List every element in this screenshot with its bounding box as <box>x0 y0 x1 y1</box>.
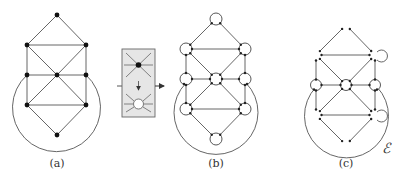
port <box>349 88 351 90</box>
edge <box>190 53 212 75</box>
port <box>238 78 240 80</box>
vertex <box>55 13 60 18</box>
port <box>374 59 376 61</box>
port <box>341 28 343 30</box>
port <box>240 112 242 114</box>
edge <box>190 23 212 45</box>
port <box>370 118 372 120</box>
port <box>209 78 211 80</box>
expanded-vertex <box>239 73 251 85</box>
transform-box <box>117 49 164 117</box>
loop <box>377 110 387 122</box>
port <box>374 78 376 80</box>
port <box>185 72 187 74</box>
port <box>246 83 248 85</box>
vertex <box>25 73 30 78</box>
port <box>240 43 242 45</box>
port <box>349 140 351 142</box>
edge <box>57 105 86 135</box>
port <box>185 54 187 56</box>
vertex <box>25 103 30 108</box>
edge <box>57 75 86 105</box>
port <box>244 102 246 104</box>
edge <box>220 113 241 134</box>
port <box>315 59 317 61</box>
port <box>350 84 352 86</box>
port <box>339 84 341 86</box>
edge <box>350 29 371 51</box>
port <box>370 110 372 112</box>
port <box>320 54 322 56</box>
port <box>313 88 315 90</box>
graph-b <box>174 13 258 154</box>
port <box>240 103 242 105</box>
port <box>221 78 223 80</box>
port <box>219 133 221 135</box>
edge <box>350 119 371 141</box>
port <box>211 82 213 84</box>
port <box>219 73 221 75</box>
edge <box>320 119 342 141</box>
port <box>319 118 321 120</box>
port <box>349 28 351 30</box>
edge <box>320 89 342 111</box>
port <box>341 80 343 82</box>
port <box>244 72 246 74</box>
port <box>368 54 370 56</box>
port <box>368 84 370 86</box>
port <box>370 50 372 52</box>
graph-a <box>13 13 101 152</box>
port <box>211 74 213 76</box>
port <box>319 50 321 52</box>
port <box>211 22 213 24</box>
port <box>370 58 372 60</box>
edge <box>57 45 86 75</box>
vertex <box>55 133 60 138</box>
outer-face-label: ℰ <box>382 140 390 156</box>
edge <box>220 83 241 104</box>
loop <box>377 50 387 62</box>
vertex <box>25 43 30 48</box>
edge <box>190 83 212 105</box>
vertex <box>55 73 60 78</box>
port <box>189 104 191 106</box>
edge <box>220 53 241 74</box>
port <box>368 114 370 116</box>
port <box>189 44 191 46</box>
figure: (a) (b) (c) ℰ <box>0 0 401 184</box>
port <box>191 48 193 50</box>
panel-label-c: (c) <box>339 157 354 170</box>
port <box>219 82 221 84</box>
port <box>320 84 322 86</box>
outer-arc <box>305 87 389 158</box>
port <box>191 78 193 80</box>
vertex <box>84 43 89 48</box>
edge <box>320 29 342 51</box>
panel-label-b: (b) <box>208 157 224 170</box>
edge <box>27 75 57 105</box>
port <box>315 108 317 110</box>
edge <box>350 89 371 111</box>
port <box>189 112 191 114</box>
edge <box>350 59 371 81</box>
port <box>376 88 378 90</box>
port <box>189 52 191 54</box>
expanded-vertex <box>311 80 322 91</box>
port <box>183 83 185 85</box>
expanded-vertex <box>180 73 192 85</box>
port <box>244 54 246 56</box>
port <box>240 52 242 54</box>
port <box>341 140 343 142</box>
port <box>341 88 343 90</box>
port <box>211 134 213 136</box>
port <box>191 108 193 110</box>
vertex <box>84 103 89 108</box>
port <box>315 78 317 80</box>
port <box>319 110 321 112</box>
port <box>320 114 322 116</box>
vertex <box>84 73 89 78</box>
port <box>374 108 376 110</box>
edge <box>27 45 57 75</box>
edge <box>27 105 57 135</box>
edge <box>57 15 86 45</box>
